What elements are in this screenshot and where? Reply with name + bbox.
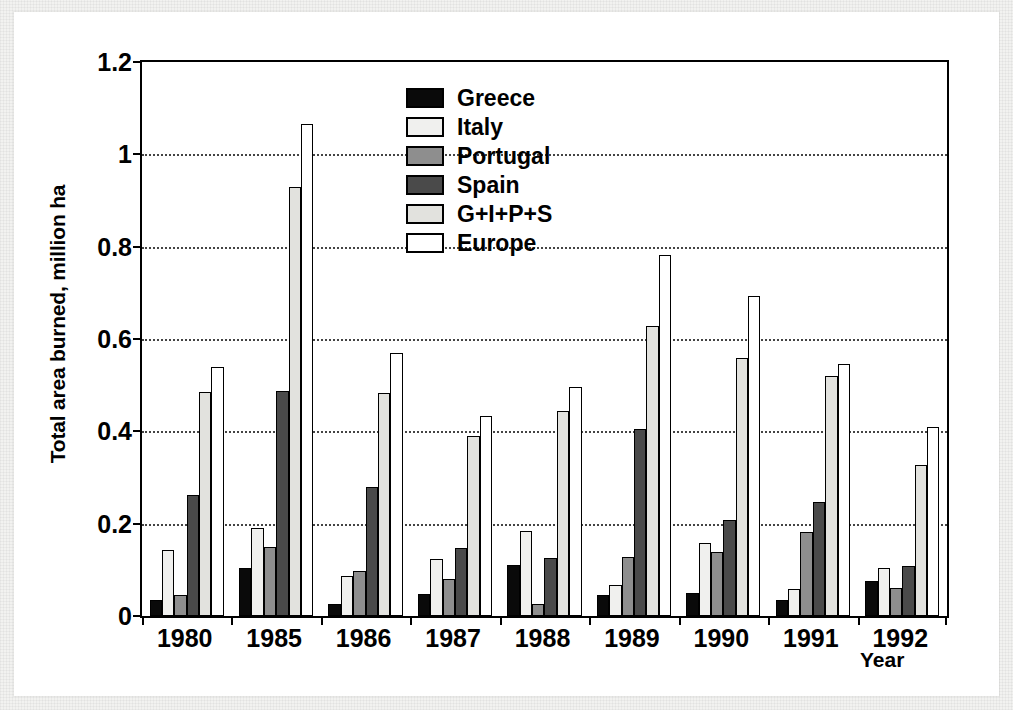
legend-item-portugal: Portugal [406, 142, 646, 170]
bar-gips-1988 [557, 411, 569, 616]
bar-europe-1987 [480, 416, 492, 616]
bar-greece-1992 [865, 581, 877, 616]
bar-greece-1990 [686, 593, 698, 616]
y-axis-tick-mark [133, 338, 142, 340]
y-axis-tick-label: 0.4 [97, 417, 132, 446]
x-axis-tick-mark [768, 616, 770, 625]
bar-portugal-1986 [353, 571, 365, 616]
bar-europe-1991 [838, 364, 850, 616]
legend-label: G+I+P+S [457, 203, 552, 226]
y-axis-tick-label: 0.6 [97, 325, 132, 354]
y-axis-tick-label: 0 [118, 602, 132, 631]
bar-greece-1985 [239, 568, 251, 616]
legend-swatch-gips-icon [406, 204, 444, 224]
bar-italy-1980 [162, 550, 174, 616]
bar-chart-figure: Total area burned, million ha Year 00.20… [14, 12, 999, 696]
x-axis-tick-label: 1988 [515, 624, 571, 653]
bar-italy-1985 [251, 528, 263, 616]
bar-italy-1988 [520, 531, 532, 616]
bar-greece-1991 [776, 600, 788, 616]
bar-spain-1991 [813, 502, 825, 616]
bar-italy-1990 [699, 543, 711, 616]
bar-gips-1987 [467, 436, 479, 616]
bar-spain-1980 [187, 495, 199, 616]
bar-gips-1991 [825, 376, 837, 616]
bar-gips-1990 [736, 358, 748, 616]
bar-gips-1986 [378, 393, 390, 616]
legend-swatch-italy-icon [406, 117, 444, 137]
bar-spain-1989 [634, 429, 646, 616]
bar-italy-1986 [341, 576, 353, 616]
bar-portugal-1980 [174, 595, 186, 616]
x-axis-tick-mark [679, 616, 681, 625]
x-axis-tick-mark [858, 616, 860, 625]
bar-greece-1988 [507, 565, 519, 616]
legend-label: Portugal [457, 145, 550, 168]
legend-item-gips: G+I+P+S [406, 200, 646, 228]
x-axis-tick-label: 1980 [157, 624, 213, 653]
legend-swatch-portugal-icon [406, 146, 444, 166]
bar-gips-1985 [289, 187, 301, 616]
bar-europe-1990 [748, 296, 760, 616]
legend-label: Italy [457, 116, 503, 139]
bar-europe-1985 [301, 124, 313, 616]
bar-portugal-1989 [622, 557, 634, 616]
bar-spain-1988 [544, 558, 556, 616]
bar-spain-1990 [723, 520, 735, 616]
bar-group-1985 [231, 62, 320, 616]
bar-portugal-1985 [264, 547, 276, 616]
bar-group-1986 [321, 62, 410, 616]
y-axis-tick-label: 0.2 [97, 509, 132, 538]
x-axis-tick-mark [500, 616, 502, 625]
x-axis-tick-mark [142, 616, 144, 625]
x-axis-tick-label: 1986 [336, 624, 392, 653]
bar-italy-1987 [430, 559, 442, 616]
page-background: Total area burned, million ha Year 00.20… [0, 0, 1013, 710]
bar-europe-1980 [211, 367, 223, 616]
x-axis-tick-mark [410, 616, 412, 625]
legend-label: Europe [457, 232, 536, 255]
bar-spain-1992 [902, 566, 914, 616]
bar-group-1992 [858, 62, 947, 616]
legend-label: Spain [457, 174, 520, 197]
y-axis-tick-mark [133, 61, 142, 63]
bar-portugal-1992 [890, 588, 902, 616]
bar-greece-1987 [418, 594, 430, 616]
x-axis-tick-label: 1990 [694, 624, 750, 653]
bar-greece-1980 [150, 600, 162, 616]
bar-greece-1989 [597, 595, 609, 616]
bar-gips-1980 [199, 392, 211, 616]
x-axis-tick-mark [231, 616, 233, 625]
x-axis-tick-label: 1989 [604, 624, 660, 653]
bar-europe-1988 [569, 387, 581, 616]
x-axis-tick-mark [321, 616, 323, 625]
y-axis-tick-label: 1 [118, 140, 132, 169]
y-axis-tick-mark [133, 615, 142, 617]
page-sheet: Total area burned, million ha Year 00.20… [14, 12, 999, 696]
bar-europe-1986 [390, 353, 402, 616]
bar-spain-1985 [276, 391, 288, 616]
chart-legend: GreeceItalyPortugalSpainG+I+P+SEurope [406, 84, 646, 258]
legend-label: Greece [457, 87, 535, 110]
bar-portugal-1990 [711, 552, 723, 616]
y-axis-tick-mark [133, 153, 142, 155]
bar-portugal-1991 [800, 532, 812, 616]
bar-gips-1989 [646, 326, 658, 616]
x-axis-tick-label: 1991 [783, 624, 839, 653]
legend-swatch-europe-icon [406, 233, 444, 253]
x-axis-tick-label: 1987 [425, 624, 481, 653]
legend-item-greece: Greece [406, 84, 646, 112]
bar-gips-1992 [915, 465, 927, 616]
x-axis-tick-mark [589, 616, 591, 625]
y-axis-tick-label: 0.8 [97, 232, 132, 261]
bar-group-1991 [768, 62, 857, 616]
bar-greece-1986 [328, 604, 340, 616]
bar-europe-1992 [927, 427, 939, 616]
bar-spain-1986 [366, 487, 378, 616]
bar-group-1990 [679, 62, 768, 616]
y-axis-title: Total area burned, million ha [46, 84, 70, 564]
bar-europe-1989 [659, 255, 671, 616]
legend-item-europe: Europe [406, 229, 646, 257]
legend-item-italy: Italy [406, 113, 646, 141]
bar-italy-1992 [878, 568, 890, 616]
